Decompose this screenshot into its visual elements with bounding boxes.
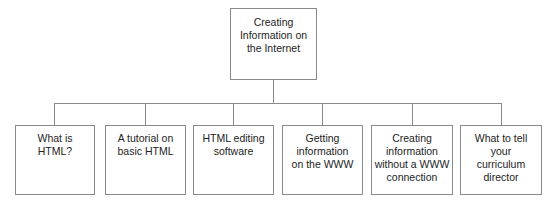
child-node-creating-information-without-a-www-connection[interactable]: Creating information without a WWW conne… [371,125,453,195]
connector-drop-2 [145,103,146,125]
connector-drop-4 [322,103,323,125]
child-node-label-5: Creating information without a WWW conne… [373,126,452,184]
child-node-a-tutorial-on-basic-html[interactable]: A tutorial on basic HTML [105,125,186,195]
connector-drop-6 [501,103,502,125]
root-node-label: Creating Information on the Internet [238,9,309,55]
child-node-label-6: What to tell your curriculum director [473,126,530,184]
child-node-label-1: What is HTML? [35,126,74,158]
connector-horizontal-bus [54,103,502,104]
child-node-what-to-tell-your-curriculum-director[interactable]: What to tell your curriculum director [460,125,542,195]
child-node-what-is-html[interactable]: What is HTML? [15,125,95,195]
connector-root-stem [273,80,274,103]
child-node-label-2: A tutorial on basic HTML [115,126,175,158]
org-chart-diagram: Creating Information on the Internet Wha… [0,0,551,210]
child-node-getting-information-on-the-www[interactable]: Getting information on the WWW [282,125,363,195]
child-node-label-3: HTML editing software [200,126,266,158]
connector-drop-5 [412,103,413,125]
connector-drop-3 [233,103,234,125]
connector-drop-1 [54,103,55,125]
child-node-html-editing-software[interactable]: HTML editing software [193,125,274,195]
child-node-label-4: Getting information on the WWW [290,126,356,171]
root-node-creating-information-on-the-internet[interactable]: Creating Information on the Internet [230,8,317,80]
